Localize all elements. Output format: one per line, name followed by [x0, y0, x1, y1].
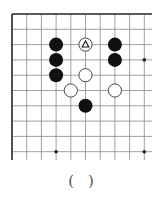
star-point: [143, 150, 147, 154]
open-paren: (: [68, 172, 74, 190]
answer-blank: (): [0, 172, 162, 190]
close-paren: ): [88, 172, 94, 190]
black-stone: [108, 53, 122, 67]
go-board: [0, 0, 162, 165]
white-stone: [64, 84, 77, 97]
black-stone: [108, 38, 122, 52]
black-stone: [49, 38, 63, 52]
black-stone: [49, 68, 63, 82]
star-point: [143, 58, 147, 62]
star-point: [54, 150, 58, 154]
white-stone: [108, 84, 121, 97]
black-stone: [79, 99, 93, 113]
white-stone: [79, 69, 92, 82]
black-stone: [49, 53, 63, 67]
